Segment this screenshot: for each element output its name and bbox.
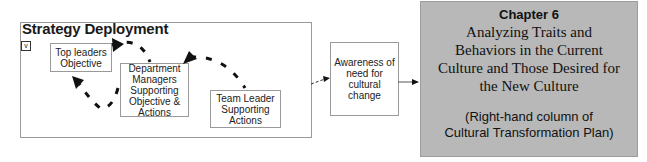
right-arrow-icon — [311, 76, 330, 84]
dashed-curved-arrow-icon — [72, 76, 118, 108]
arrows-layer — [0, 0, 647, 162]
right-arrow-icon — [398, 79, 419, 85]
dashed-curved-arrow-icon — [112, 38, 150, 62]
dashed-curved-arrow-icon — [183, 51, 245, 88]
